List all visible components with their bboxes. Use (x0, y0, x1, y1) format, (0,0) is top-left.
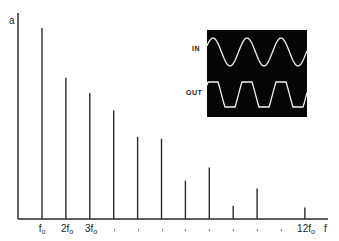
tick-label-f0: fo (39, 224, 46, 237)
tick-dot (233, 229, 234, 231)
inset-in-label: IN (192, 45, 200, 52)
tick-label-3f0: 3fo (85, 224, 97, 237)
tick-dot (257, 229, 258, 231)
tick-dot (162, 229, 163, 231)
tick-label-2f0: 2fo (61, 224, 73, 237)
x-axis-label: f (324, 224, 327, 234)
y-axis-label: a (9, 16, 15, 26)
spectrum-chart (0, 0, 339, 241)
inset-oscilloscope (207, 30, 307, 117)
tick-dot (281, 229, 282, 231)
tick-dot (209, 229, 210, 231)
tick-dot (114, 229, 115, 231)
tick-dot (138, 229, 139, 231)
tick-dot (185, 229, 186, 231)
tick-label-12f0: 12fo (297, 224, 315, 237)
inset-out-label: OUT (186, 89, 202, 96)
